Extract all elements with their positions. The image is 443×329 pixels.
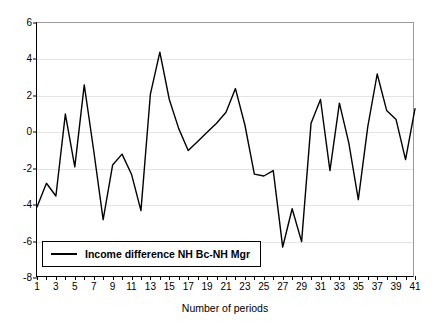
x-tick-mark [254, 276, 255, 280]
x-tick-mark [396, 276, 397, 280]
y-tick-mark [33, 205, 37, 206]
y-tick-mark [33, 95, 37, 96]
x-tick-mark [235, 276, 236, 280]
x-tick-label: 17 [183, 282, 194, 292]
x-tick-mark [302, 276, 303, 280]
x-tick-mark [122, 276, 123, 280]
x-tick-mark [141, 276, 142, 280]
x-tick-mark [132, 276, 133, 280]
x-tick-label: 39 [391, 282, 402, 292]
y-tick-label: 4 [26, 54, 32, 64]
legend-item-label: Income difference NH Bc-NH Mgr [85, 249, 250, 260]
y-tick-mark [33, 59, 37, 60]
legend-line-swatch-icon [51, 253, 77, 255]
x-tick-mark [75, 276, 76, 280]
x-tick-label: 5 [72, 282, 78, 292]
x-tick-mark [56, 276, 57, 280]
x-tick-mark [188, 276, 189, 280]
x-tick-mark [330, 276, 331, 280]
x-tick-mark [349, 276, 350, 280]
x-axis-title: Number of periods [36, 302, 414, 314]
x-tick-label: 37 [372, 282, 383, 292]
y-tick-label: 0 [26, 127, 32, 137]
x-tick-mark [292, 276, 293, 280]
x-tick-mark [37, 276, 38, 280]
line-chart: 6420-2-4-6-8 135791113151719212325272931… [0, 0, 443, 329]
x-tick-label: 19 [202, 282, 213, 292]
x-tick-label: 15 [164, 282, 175, 292]
legend: Income difference NH Bc-NH Mgr [42, 241, 261, 267]
x-tick-mark [217, 276, 218, 280]
x-tick-mark [113, 276, 114, 280]
x-tick-mark [273, 276, 274, 280]
x-tick-mark [311, 276, 312, 280]
x-tick-label: 13 [145, 282, 156, 292]
x-tick-mark [150, 276, 151, 280]
x-tick-mark [245, 276, 246, 280]
x-tick-label: 21 [220, 282, 231, 292]
x-tick-mark [65, 276, 66, 280]
x-tick-mark [358, 276, 359, 280]
y-tick-mark [33, 132, 37, 133]
x-tick-mark [339, 276, 340, 280]
series-line-income-difference [37, 23, 415, 278]
x-tick-label: 35 [353, 282, 364, 292]
x-tick-mark [207, 276, 208, 280]
x-tick-label: 31 [315, 282, 326, 292]
x-tick-label: 27 [277, 282, 288, 292]
x-tick-label: 3 [53, 282, 59, 292]
x-tick-mark [84, 276, 85, 280]
plot-area: 6420-2-4-6-8 135791113151719212325272931… [36, 22, 414, 277]
x-tick-label: 23 [239, 282, 250, 292]
y-tick-label: 2 [26, 91, 32, 101]
x-tick-label: 41 [409, 282, 420, 292]
x-tick-label: 11 [126, 282, 136, 292]
y-tick-label: 6 [26, 18, 32, 28]
x-tick-mark [169, 276, 170, 280]
y-tick-label: -4 [23, 200, 32, 210]
y-tick-label: -2 [23, 164, 32, 174]
x-tick-label: 7 [91, 282, 97, 292]
x-tick-label: 9 [110, 282, 116, 292]
x-tick-label: 1 [34, 282, 40, 292]
x-tick-mark [387, 276, 388, 280]
x-tick-mark [377, 276, 378, 280]
x-tick-mark [46, 276, 47, 280]
x-tick-mark [368, 276, 369, 280]
x-tick-mark [179, 276, 180, 280]
x-tick-mark [415, 276, 416, 280]
x-tick-mark [226, 276, 227, 280]
y-tick-mark [33, 241, 37, 242]
x-tick-mark [406, 276, 407, 280]
series-polyline [37, 52, 415, 247]
x-tick-mark [160, 276, 161, 280]
x-tick-mark [103, 276, 104, 280]
x-tick-mark [198, 276, 199, 280]
x-tick-mark [264, 276, 265, 280]
y-tick-mark [33, 168, 37, 169]
x-tick-mark [94, 276, 95, 280]
x-tick-label: 29 [296, 282, 307, 292]
x-tick-label: 33 [334, 282, 345, 292]
x-tick-mark [283, 276, 284, 280]
x-tick-mark [321, 276, 322, 280]
y-tick-mark [33, 23, 37, 24]
y-tick-label: -6 [23, 237, 32, 247]
y-tick-label: -8 [23, 273, 32, 283]
x-tick-label: 25 [258, 282, 269, 292]
